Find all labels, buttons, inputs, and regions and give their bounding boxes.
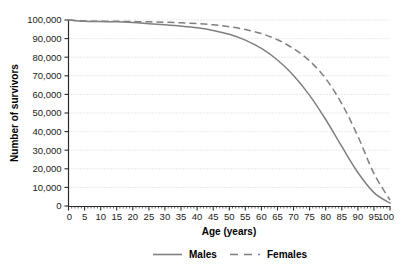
y-tick-label: 0 (56, 200, 61, 211)
x-tick-label: 90 (353, 211, 364, 222)
x-tick-label: 5 (82, 211, 87, 222)
x-tick-label: 55 (240, 211, 251, 222)
x-tick-label: 20 (128, 211, 139, 222)
x-tick-label: 25 (144, 211, 155, 222)
y-axis-label: Number of survivors (9, 64, 20, 162)
x-tick-label: 40 (192, 211, 203, 222)
x-axis-tick-labels: 0510152025303540455055606570758085909510… (67, 211, 394, 222)
x-tick-label: 70 (288, 211, 299, 222)
x-tick-label: 75 (304, 211, 315, 222)
x-tick-label: 60 (256, 211, 267, 222)
y-tick-label: 100,000 (27, 14, 61, 25)
x-tick-label: 15 (111, 211, 122, 222)
y-tick-label: 30,000 (32, 145, 61, 156)
legend-label-males: Males (189, 249, 217, 260)
y-tick-label: 20,000 (32, 163, 61, 174)
y-axis-tick-labels: 010,00020,00030,00040,00050,00060,00070,… (27, 14, 61, 211)
x-tick-label: 30 (160, 211, 171, 222)
x-tick-label: 65 (272, 211, 283, 222)
x-tick-label: 45 (208, 211, 219, 222)
x-tick-label: 50 (224, 211, 235, 222)
y-tick-label: 10,000 (32, 182, 61, 193)
x-tick-label: 80 (320, 211, 331, 222)
y-tick-label: 50,000 (32, 107, 61, 118)
y-tick-label: 90,000 (32, 33, 61, 44)
chart-canvas: 010,00020,00030,00040,00050,00060,00070,… (0, 0, 414, 269)
x-tick-label: 0 (67, 211, 72, 222)
x-tick-label: 10 (95, 211, 106, 222)
y-tick-label: 60,000 (32, 89, 61, 100)
y-tick-label: 80,000 (32, 52, 61, 63)
x-tick-label: 85 (337, 211, 348, 222)
x-tick-label: 100 (378, 211, 394, 222)
y-tick-label: 70,000 (32, 70, 61, 81)
y-tick-label: 40,000 (32, 126, 61, 137)
x-axis-label: Age (years) (202, 226, 256, 237)
x-tick-label: 35 (176, 211, 187, 222)
survivorship-chart-figure: 010,00020,00030,00040,00050,00060,00070,… (0, 0, 414, 269)
legend-label-females: Females (267, 249, 307, 260)
